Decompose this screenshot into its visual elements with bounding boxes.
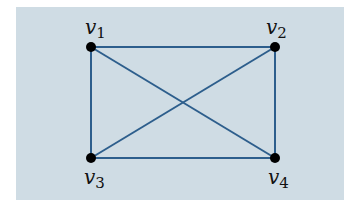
node-v1	[86, 42, 96, 52]
node-v4	[270, 153, 280, 163]
label-v4: v4	[268, 165, 289, 192]
node-v3	[86, 153, 96, 163]
node-v2	[270, 42, 280, 52]
graph-diagram: v1 v2 v3 v4	[0, 0, 358, 206]
label-v1: v1	[85, 15, 106, 42]
edges	[91, 47, 275, 158]
label-v3: v3	[84, 165, 105, 192]
label-v2: v2	[266, 15, 287, 42]
